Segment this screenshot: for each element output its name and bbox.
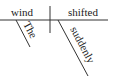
modifier-word-the: The bbox=[21, 19, 40, 40]
modifier-word-suddenly: suddenly bbox=[68, 24, 97, 65]
predicate-word: shifted bbox=[68, 6, 98, 18]
sentence-diagram: wind shifted The suddenly bbox=[0, 0, 114, 79]
subject-word: wind bbox=[11, 6, 34, 18]
